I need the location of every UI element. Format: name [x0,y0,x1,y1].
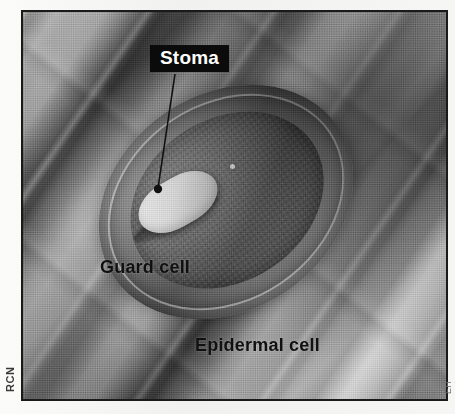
figure-page: Stoma Guard cell Epidermal cell RCN EH [0,0,455,414]
micrograph-frame: Stoma Guard cell Epidermal cell [21,10,448,401]
credit-right-margin: EH [442,356,454,400]
label-stoma: Stoma [150,45,229,72]
label-guard-cell: Guard cell [100,257,190,277]
label-epidermal-cell: Epidermal cell [195,335,320,355]
credit-right-text: EH [443,382,453,394]
credit-left-text: RCN [4,376,16,392]
credit-left-margin: RCN [2,348,18,396]
